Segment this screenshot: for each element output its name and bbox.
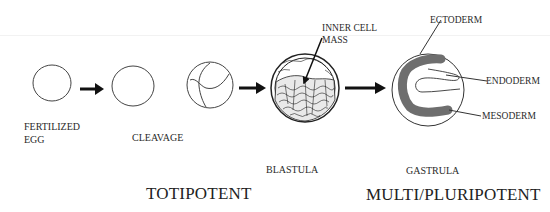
- label-multi-pluripotent: MULTI/PLURIPOTENT: [366, 185, 541, 205]
- development-diagram: [0, 0, 550, 212]
- label-inner-cell-mass-line2: MASS: [322, 34, 377, 46]
- cleavage-divided-cell-icon: [187, 62, 233, 108]
- label-fertilized-egg: FERTILIZED EGG: [24, 120, 80, 146]
- label-inner-cell-mass: INNER CELL MASS: [322, 22, 377, 46]
- label-endoderm: ENDODERM: [486, 75, 540, 88]
- label-gastrula: GASTRULA: [406, 164, 459, 177]
- arrow-right-icon: [239, 82, 266, 94]
- gastrula-cell-icon: [392, 20, 487, 126]
- label-cleavage: CLEAVAGE: [132, 131, 183, 144]
- label-totipotent: TOTIPOTENT: [146, 184, 252, 204]
- label-inner-cell-mass-line1: INNER CELL: [322, 22, 377, 34]
- arrow-right-icon: [345, 82, 386, 94]
- fertilized-egg-cell-icon: [33, 65, 71, 101]
- label-mesoderm: MESODERM: [482, 110, 536, 123]
- arrow-right-icon: [80, 83, 104, 95]
- label-ectoderm: ECTODERM: [430, 14, 482, 27]
- label-fertilized-egg-line1: FERTILIZED: [24, 120, 80, 133]
- label-blastula: BLASTULA: [266, 163, 318, 176]
- label-fertilized-egg-line2: EGG: [24, 133, 80, 146]
- cleavage-cell-icon: [112, 66, 154, 106]
- blastula-cell-icon: [271, 38, 339, 122]
